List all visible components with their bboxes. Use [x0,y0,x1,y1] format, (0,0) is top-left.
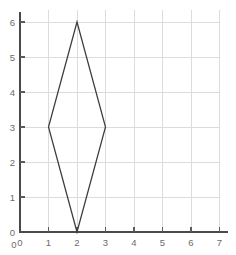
x-tick-label-5: 5 [160,237,165,248]
coordinate-plane-chart: 01234567 0123456 0 [0,0,236,255]
x-tick-label-1: 1 [46,237,51,248]
y-tick-label-1: 1 [10,192,15,203]
x-tick-label-7: 7 [217,237,222,248]
y-tick-label-4: 4 [10,87,15,98]
x-tick-label-4: 4 [131,237,136,248]
origin-tick-label: 0 [11,239,16,250]
y-tick-label-3: 3 [10,122,15,133]
y-tick-label-0: 0 [10,227,15,238]
y-tick-label-2: 2 [10,157,15,168]
x-tick-label-6: 6 [188,237,193,248]
x-tick-label-2: 2 [74,237,79,248]
y-tick-label-5: 5 [10,52,15,63]
y-tick-label-6: 6 [10,17,15,28]
x-tick-label-3: 3 [103,237,108,248]
x-tick-label-0: 0 [17,237,22,248]
